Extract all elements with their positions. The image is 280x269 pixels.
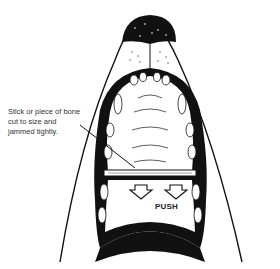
whisker-dots xyxy=(129,51,168,63)
palate xyxy=(107,76,193,172)
caption-line-3: jammed tightly. xyxy=(8,127,118,137)
push-label: PUSH xyxy=(155,202,178,211)
nose-icon xyxy=(122,15,176,44)
caption-line-2: cut to size and xyxy=(8,117,118,127)
caption-line-1: Stick or piece of bone xyxy=(8,107,118,117)
stick-caption: Stick or piece of bone cut to size and j… xyxy=(8,107,118,137)
